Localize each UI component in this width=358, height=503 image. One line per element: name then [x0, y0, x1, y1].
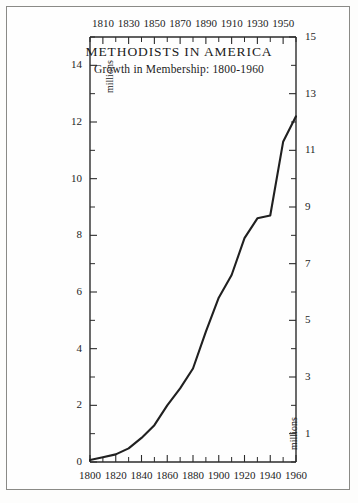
y-axis-label-left: 10: [58, 173, 82, 184]
y-axis-label-right: 9: [305, 201, 329, 212]
chart-title: METHODISTS IN AMERICA: [0, 44, 358, 60]
y-axis-label-right: 7: [305, 258, 329, 269]
y-axis-label-right: 1: [305, 428, 329, 439]
y-axis-label-right: 13: [305, 88, 329, 99]
y-axis-label-left: 4: [58, 343, 82, 354]
y-axis-title-left: millions: [104, 60, 115, 93]
y-axis-label-left: 14: [58, 59, 82, 70]
y-axis-title-right: millions: [288, 417, 299, 450]
x-axis-label-bottom: 1960: [279, 470, 313, 481]
chart-page: METHODISTS IN AMERICA Growth in Membersh…: [0, 0, 358, 503]
chart-subtitle: Growth in Membership: 1800-1960: [0, 63, 358, 75]
y-axis-label-left: 12: [58, 116, 82, 127]
y-axis-label-left: 0: [58, 456, 82, 467]
y-axis-label-left: 2: [58, 399, 82, 410]
x-axis-label-top: 1950: [266, 18, 300, 29]
data-series-line: [90, 116, 296, 460]
y-axis-label-right: 11: [305, 144, 329, 155]
y-axis-label-right: 3: [305, 371, 329, 382]
y-axis-label-left: 8: [58, 229, 82, 240]
y-axis-label-left: 6: [58, 286, 82, 297]
y-axis-label-right: 5: [305, 314, 329, 325]
y-axis-label-right: 15: [305, 31, 329, 42]
